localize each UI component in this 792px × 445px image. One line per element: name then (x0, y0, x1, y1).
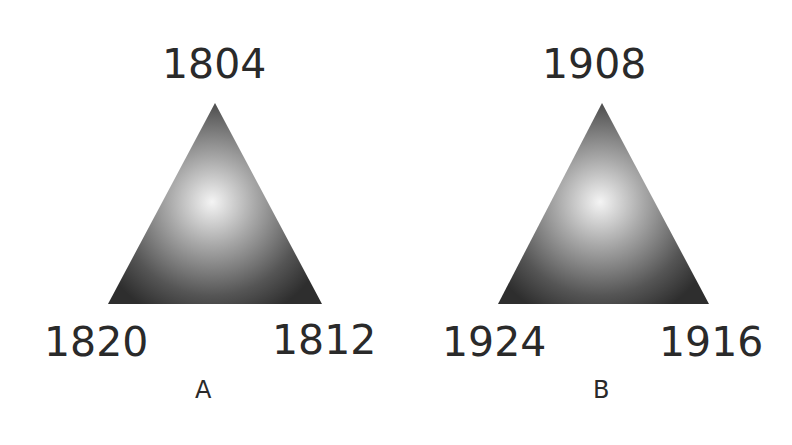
triangles-canvas (0, 0, 792, 445)
triangle-b-bottom-left-label: 1924 (442, 322, 546, 363)
triangle-b-bottom-right-label: 1916 (659, 322, 763, 363)
triangle-a (108, 103, 322, 304)
triangle-a-top-label: 1804 (162, 44, 266, 85)
triangle-a-bottom-left-label: 1820 (44, 322, 148, 363)
triangle-b (498, 103, 709, 304)
triangle-a-caption: A (195, 378, 211, 402)
triangle-a-bottom-right-label: 1812 (272, 320, 376, 361)
triangle-b-caption: B (593, 378, 609, 402)
triangle-b-top-label: 1908 (542, 44, 646, 85)
